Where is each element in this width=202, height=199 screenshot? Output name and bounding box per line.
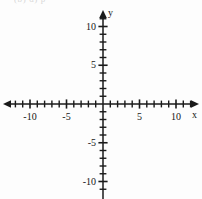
y-axis-tick-label: -10 <box>83 177 96 187</box>
y-axis-top-arrowhead <box>99 10 107 18</box>
y-axis-tick-label: 5 <box>91 60 96 70</box>
coordinate-plane-figure: (b) d) p -10-5510 105-5-10 x y <box>0 0 202 199</box>
y-axis-label: y <box>108 8 113 18</box>
x-axis-right-arrowhead <box>191 100 199 108</box>
y-axis-tick-label: -5 <box>88 138 96 148</box>
y-axis-tick-label: 10 <box>86 22 96 32</box>
x-axis-tick-label: -10 <box>23 112 36 122</box>
x-axis-tick-label: 5 <box>137 112 142 122</box>
x-axis-tick-label: -5 <box>62 112 70 122</box>
x-axis-label: x <box>192 110 197 120</box>
axes-svg <box>0 0 202 199</box>
x-axis-tick-label: 10 <box>171 112 181 122</box>
x-axis-left-arrowhead <box>3 100 11 108</box>
